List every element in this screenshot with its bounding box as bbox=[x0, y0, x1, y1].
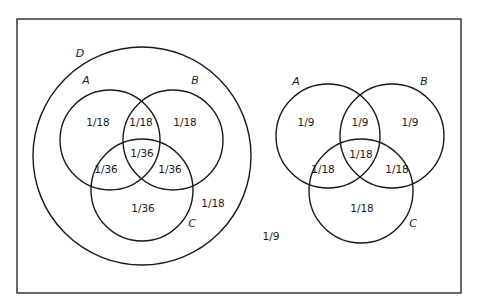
region-ab-left: 1/18 bbox=[129, 116, 153, 128]
region-bc-left: 1/36 bbox=[158, 163, 182, 175]
right-venn: A B C 1/9 1/9 1/9 1/18 1/18 1/18 1/18 bbox=[276, 75, 444, 243]
region-c-only-left: 1/36 bbox=[131, 202, 155, 214]
label-a-left: A bbox=[81, 74, 90, 87]
circle-b-left bbox=[123, 90, 223, 190]
region-b-only-right: 1/9 bbox=[402, 116, 419, 128]
region-abc-left: 1/36 bbox=[130, 147, 154, 159]
label-c-right: C bbox=[409, 217, 417, 230]
label-b-left: B bbox=[191, 74, 199, 87]
region-a-only-right: 1/9 bbox=[298, 116, 315, 128]
region-abc-right: 1/18 bbox=[349, 148, 373, 160]
region-d-only: 1/18 bbox=[201, 197, 225, 209]
universe-frame bbox=[17, 19, 461, 293]
left-venn: D A B C 1/18 1/18 1/18 1/36 1/36 1/36 1/… bbox=[33, 47, 251, 265]
region-a-only-left: 1/18 bbox=[86, 116, 110, 128]
region-bc-right: 1/18 bbox=[385, 163, 409, 175]
label-a-right: A bbox=[291, 75, 300, 88]
venn-diagram-figure: D A B C 1/18 1/18 1/18 1/36 1/36 1/36 1/… bbox=[0, 0, 477, 305]
region-ab-right: 1/9 bbox=[352, 116, 369, 128]
region-c-only-right: 1/18 bbox=[350, 202, 374, 214]
region-ac-left: 1/36 bbox=[94, 163, 118, 175]
circle-a-left bbox=[60, 90, 160, 190]
label-b-right: B bbox=[420, 75, 428, 88]
label-c-left: C bbox=[188, 217, 196, 230]
region-outside: 1/9 bbox=[263, 230, 280, 242]
region-b-only-left: 1/18 bbox=[173, 116, 197, 128]
label-d: D bbox=[76, 47, 84, 60]
region-ac-right: 1/18 bbox=[311, 163, 335, 175]
